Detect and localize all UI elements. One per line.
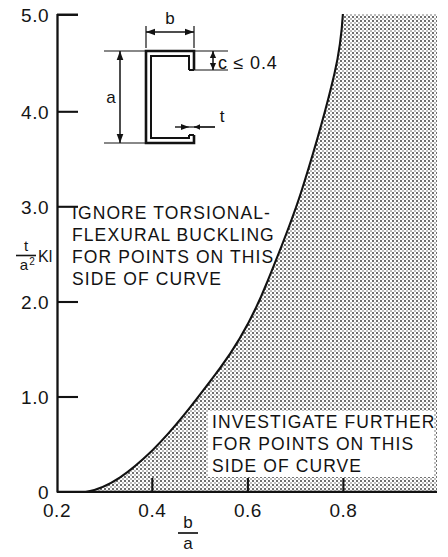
y-axis-title-denominator: a: [20, 256, 29, 273]
ignore-note-line-1: FLEXURAL BUCKLING: [72, 225, 275, 245]
y-axis-title-suffix: Kl: [38, 248, 52, 265]
y-tick-label-4: 4.0: [21, 102, 49, 123]
ignore-note-line-2: FOR POINTS ON THIS: [72, 247, 274, 267]
y-tick-label-2: 2.0: [21, 292, 49, 313]
x-tick-label-1: 0.4: [138, 500, 166, 521]
x-tick-label-0: 0.2: [43, 500, 71, 521]
dimension-t-label: t: [220, 107, 225, 126]
y-tick-label-5: 5.0: [21, 5, 49, 26]
investigate-note-line-1: FOR POINTS ON THIS: [212, 434, 414, 454]
investigate-note-line-2: SIDE OF CURVE: [212, 456, 362, 476]
investigate-region-note: INVESTIGATE FURTHER FOR POINTS ON THIS S…: [208, 411, 435, 477]
investigate-note-line-0: INVESTIGATE FURTHER: [212, 412, 435, 432]
lip-constraint-label: c ≤ 0.4: [218, 53, 278, 73]
dimension-a-arrow-top: [117, 51, 124, 60]
ignore-note-line-0: IGNORE TORSIONAL-: [72, 203, 271, 223]
dimension-a-arrow-bottom: [117, 134, 124, 143]
dimension-b-arrow-left: [146, 29, 155, 36]
chart-svg: 5.0 4.0 3.0 2.0 1.0 0 t a 2 Kl 0.2 0.4 0…: [0, 0, 448, 557]
dimension-t-arrow-right: [194, 124, 200, 130]
dimension-c-arrow-down: [210, 63, 216, 70]
dimension-a-label: a: [106, 88, 116, 107]
x-axis-title-numerator: b: [183, 513, 192, 532]
ignore-region-note: IGNORE TORSIONAL- FLEXURAL BUCKLING FOR …: [72, 203, 275, 289]
ignore-note-line-3: SIDE OF CURVE: [72, 269, 222, 289]
x-axis-title: b a: [178, 513, 198, 553]
y-axis-title-numerator: t: [24, 237, 29, 254]
dimension-c-arrow-up: [210, 51, 216, 58]
x-tick-label-2: 0.6: [234, 500, 262, 521]
y-tick-label-3: 3.0: [21, 197, 49, 218]
y-axis-title: t a 2 Kl: [16, 237, 52, 273]
dimension-a: a: [104, 51, 146, 143]
y-tick-label-1: 1.0: [21, 387, 49, 408]
x-axis-title-denominator: a: [183, 534, 193, 553]
dimension-c: c ≤ 0.4: [194, 51, 278, 73]
chart-figure: 5.0 4.0 3.0 2.0 1.0 0 t a 2 Kl 0.2 0.4 0…: [0, 0, 448, 557]
y-axis-title-exponent: 2: [29, 256, 35, 267]
channel-cross-section: b a c ≤ 0.4 t: [104, 9, 278, 143]
x-tick-label-3: 0.8: [329, 500, 357, 521]
dimension-b-arrow-right: [185, 29, 194, 36]
dimension-b-label: b: [165, 9, 174, 28]
section-outer-profile: [146, 51, 194, 143]
dimension-t-arrow-left: [181, 124, 189, 130]
dimension-t: t: [175, 107, 225, 130]
dimension-b: b: [146, 9, 194, 48]
